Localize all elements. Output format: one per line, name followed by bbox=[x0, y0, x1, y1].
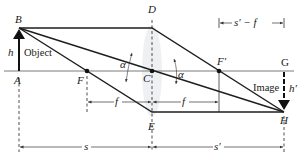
label-h: h bbox=[8, 46, 14, 58]
label-image: Image bbox=[253, 82, 280, 93]
lens-ray-diagram: B A D C E F F′ G H h Object Image h′ α α… bbox=[0, 0, 304, 161]
label-H: H bbox=[279, 114, 289, 126]
label-F: F bbox=[76, 74, 84, 86]
label-E: E bbox=[147, 120, 155, 132]
label-dim-s-prime: s′ bbox=[214, 140, 221, 152]
label-A: A bbox=[13, 74, 21, 86]
point-F-prime bbox=[217, 69, 222, 74]
label-alpha-left: α bbox=[120, 58, 126, 70]
label-B: B bbox=[15, 13, 22, 25]
label-dim-s: s bbox=[84, 140, 88, 152]
label-alpha-right: α bbox=[178, 68, 184, 80]
angle-arc-left bbox=[126, 53, 132, 82]
point-F bbox=[85, 69, 90, 74]
point-C bbox=[150, 69, 155, 74]
label-C: C bbox=[143, 72, 151, 84]
label-F-prime: F′ bbox=[216, 55, 227, 67]
label-h-prime: h′ bbox=[289, 82, 298, 94]
label-dim-s-prime-minus-f: s′ − f bbox=[234, 16, 259, 28]
label-D: D bbox=[147, 3, 156, 15]
label-G: G bbox=[281, 56, 289, 68]
label-object: Object bbox=[24, 47, 52, 58]
